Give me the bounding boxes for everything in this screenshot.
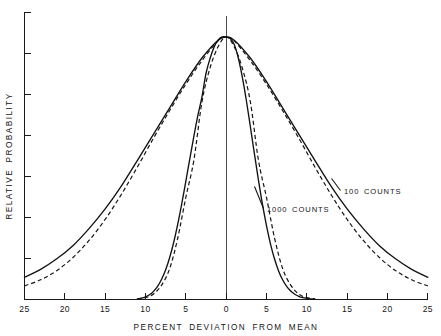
x-tick-label: 15 (100, 304, 110, 314)
x-axis-title: PERCENT DEVIATION FROM MEAN (133, 323, 318, 332)
x-tick-label: 0 (224, 304, 229, 314)
series-label-1000-counts: 1000 COUNTS (267, 205, 330, 214)
x-tick-label: 10 (140, 304, 150, 314)
x-tick-label: 15 (342, 304, 352, 314)
figure-container: 25 20 15 10 5 0 5 10 15 20 25 PERCENT DE… (0, 0, 441, 336)
x-tick-label: 10 (302, 304, 312, 314)
x-tick-label: 5 (183, 304, 188, 314)
series-label-100-counts: 100 COUNTS (344, 187, 401, 196)
x-tick-label: 25 (19, 304, 29, 314)
x-tick-label: 25 (423, 304, 433, 314)
x-tick-label: 20 (382, 304, 392, 314)
counting-statistics-chart: 25 20 15 10 5 0 5 10 15 20 25 PERCENT DE… (0, 0, 441, 336)
y-axis-title: RELATIVE PROBABILITY (5, 92, 14, 219)
x-tick-label: 20 (60, 304, 70, 314)
chart-background (0, 0, 441, 336)
x-tick-label: 5 (264, 304, 269, 314)
